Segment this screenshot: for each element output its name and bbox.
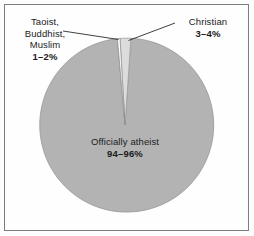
slice-value-taoist: 1–2%	[8, 51, 82, 63]
slice-label-christian: Christian 3–4%	[170, 16, 246, 39]
slice-label-officially-atheist: Officially atheist 94–96%	[63, 136, 187, 159]
slice-label-taoist-line3: Muslim	[8, 39, 82, 51]
slice-label-christian-line1: Christian	[170, 16, 246, 28]
slice-value-christian: 3–4%	[170, 28, 246, 40]
slice-label-taoist-buddhist-muslim: Taoist, Buddhist, Muslim 1–2%	[8, 16, 82, 62]
pie-chart-figure: Taoist, Buddhist, Muslim 1–2% Christian …	[0, 0, 254, 236]
slice-label-taoist-line1: Taoist,	[8, 16, 82, 28]
leader-line-christian-icon	[129, 23, 176, 41]
chart-area: Taoist, Buddhist, Muslim 1–2% Christian …	[0, 0, 254, 236]
slice-value-atheist: 94–96%	[63, 148, 187, 160]
slice-label-atheist-line1: Officially atheist	[63, 136, 187, 148]
slice-label-taoist-line2: Buddhist,	[8, 28, 82, 40]
